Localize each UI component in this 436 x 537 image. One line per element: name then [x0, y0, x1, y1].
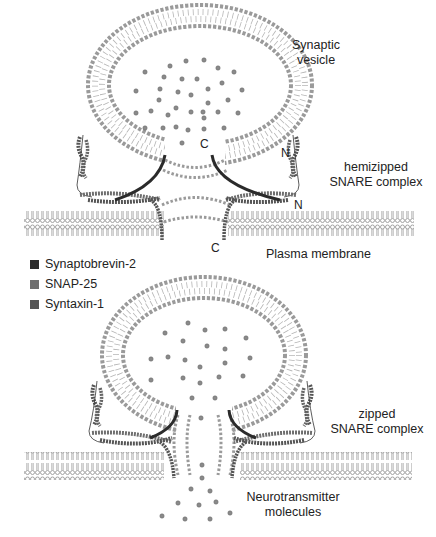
legend-swatch-syntaxin: [30, 300, 39, 309]
label-hemizipped: hemizipped SNARE complex: [316, 160, 436, 190]
legend-label-syntaxin: Syntaxin-1: [45, 297, 104, 311]
label-plasma-membrane: Plasma membrane: [266, 247, 371, 262]
legend-item-synaptobrevin: Synaptobrevin-2: [30, 254, 136, 274]
label-synaptic-line1: Synaptic: [280, 38, 352, 53]
label-neurotransmitter: Neurotransmitter molecules: [228, 490, 358, 520]
top-panel: [24, 5, 414, 240]
label-zipped-line2: SNARE complex: [322, 422, 432, 437]
legend-swatch-synaptobrevin: [30, 260, 39, 269]
terminal-c-membrane: C: [211, 241, 220, 255]
label-neurotransmitter-line2: molecules: [228, 505, 358, 520]
legend-label-synaptobrevin: Synaptobrevin-2: [45, 257, 136, 271]
neurotransmitters-top: [134, 58, 244, 145]
terminal-c-vesicle: C: [200, 137, 209, 151]
legend-swatch-snap25: [30, 280, 39, 289]
label-neurotransmitter-line1: Neurotransmitter: [228, 490, 358, 505]
label-synaptic-vesicle: Synaptic vesicle: [280, 38, 352, 68]
legend-label-snap25: SNAP-25: [45, 277, 97, 291]
legend: Synaptobrevin-2 SNAP-25 Syntaxin-1: [30, 254, 136, 314]
label-synaptic-line2: vesicle: [280, 53, 352, 68]
legend-item-syntaxin: Syntaxin-1: [30, 294, 136, 314]
label-zipped: zipped SNARE complex: [322, 407, 432, 437]
terminal-n-membrane: N: [294, 198, 303, 212]
label-hemizipped-line2: SNARE complex: [316, 175, 436, 190]
label-zipped-line1: zipped: [322, 407, 432, 422]
legend-item-snap25: SNAP-25: [30, 274, 136, 294]
plasma-membrane-top: [24, 198, 414, 239]
terminal-n-upper-right: N: [281, 146, 290, 160]
label-hemizipped-line1: hemizipped: [316, 160, 436, 175]
